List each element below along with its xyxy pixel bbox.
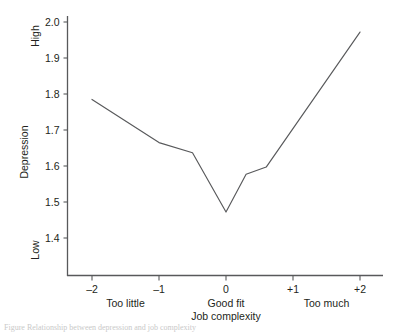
x-tick-label: 0 xyxy=(223,283,229,295)
x-category-label: Good fit xyxy=(208,297,245,309)
x-category-label: Too much xyxy=(304,297,350,309)
depression-series-line xyxy=(92,32,360,212)
x-axis-title: Job complexity xyxy=(191,310,261,322)
x-tick-label: –2 xyxy=(86,283,98,295)
chart-figure: 2.01.91.81.71.61.51.4 –2–10+1+2 Too litt… xyxy=(0,0,402,333)
figure-caption: Figure Relationship between depression a… xyxy=(4,323,196,332)
y-tick-label: 1.7 xyxy=(45,124,60,136)
y-axis-low-label: Low xyxy=(29,240,41,260)
x-tick-label: +2 xyxy=(354,283,366,295)
y-tick-label: 1.6 xyxy=(45,160,60,172)
y-tick-label: 2.0 xyxy=(45,16,60,28)
x-category-label-group: Too littleGood fitToo much xyxy=(106,297,349,309)
x-tick-label: –1 xyxy=(153,283,165,295)
y-tick-label-group: 2.01.91.81.71.61.51.4 xyxy=(45,16,60,244)
y-tick-label: 1.4 xyxy=(45,232,60,244)
y-tick-label: 1.9 xyxy=(45,52,60,64)
y-tick-label: 1.5 xyxy=(45,196,60,208)
x-category-label: Too little xyxy=(106,297,145,309)
y-axis-high-label: High xyxy=(29,25,41,47)
y-axis-title: Depression xyxy=(18,125,30,178)
x-tick-label: +1 xyxy=(287,283,299,295)
y-tick-label: 1.8 xyxy=(45,88,60,100)
x-tick-group xyxy=(92,276,360,281)
depression-job-complexity-line-chart: 2.01.91.81.71.61.51.4 –2–10+1+2 Too litt… xyxy=(0,0,402,333)
x-tick-label-group: –2–10+1+2 xyxy=(86,283,366,295)
